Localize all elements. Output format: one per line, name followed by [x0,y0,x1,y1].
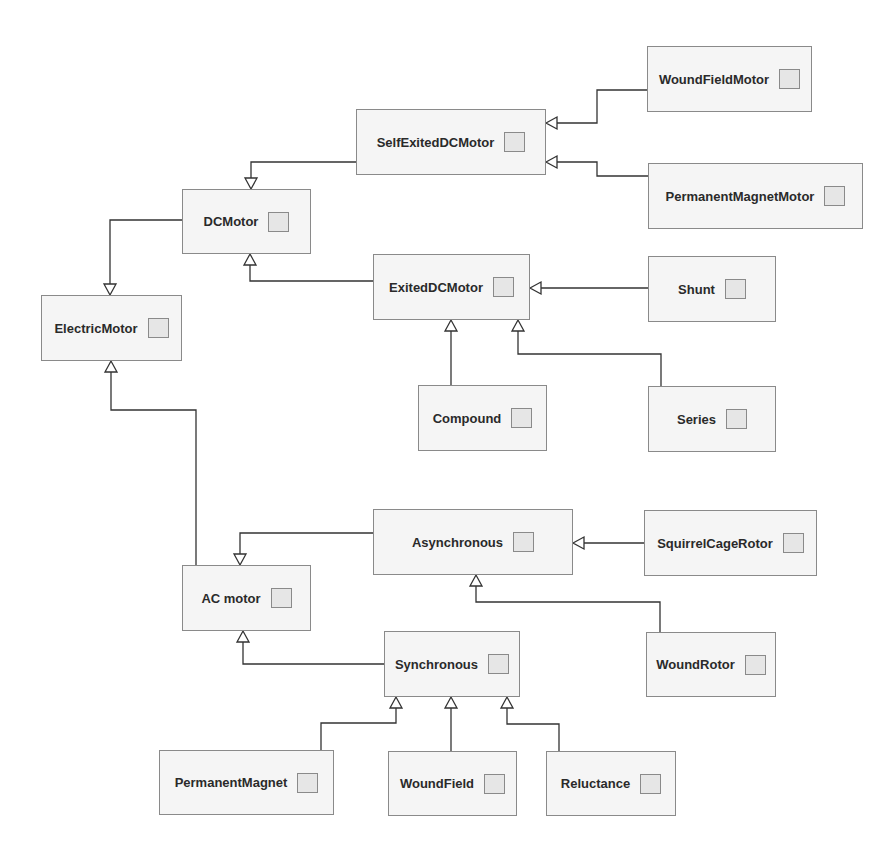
class-exited-dc-motor[interactable]: ExitedDCMotor [373,254,530,320]
class-label: WoundRotor [656,657,734,672]
class-label: Series [677,412,716,427]
class-wound-field-motor[interactable]: WoundFieldMotor [647,46,812,112]
class-icon [148,318,169,338]
generalization-arrowhead-icon [445,697,457,708]
generalization-arrowhead-icon [234,554,246,565]
class-icon [493,277,514,297]
class-label: Reluctance [561,776,630,791]
generalization-arrowhead-icon [470,575,482,586]
class-series[interactable]: Series [648,386,776,452]
class-label: SelfExitedDCMotor [377,135,495,150]
generalization-arrowhead-icon [501,697,513,708]
class-icon [297,773,318,793]
inheritance-edge [243,642,384,664]
class-squirrel-cage-rotor[interactable]: SquirrelCageRotor [644,510,817,576]
class-label: DCMotor [204,214,259,229]
class-label: WoundFieldMotor [659,72,769,87]
generalization-arrowhead-icon [245,178,257,189]
class-label: ElectricMotor [54,321,137,336]
generalization-arrowhead-icon [546,156,557,168]
inheritance-edge [518,331,661,386]
class-label: ExitedDCMotor [389,280,483,295]
class-icon [271,588,292,608]
inheritance-edge [476,586,660,632]
class-dc-motor[interactable]: DCMotor [182,189,311,254]
generalization-arrowhead-icon [237,631,249,642]
generalization-arrowhead-icon [244,254,256,265]
class-label: SquirrelCageRotor [657,536,773,551]
inheritance-edge [557,90,647,123]
inheritance-edge [111,372,196,565]
inheritance-edge [507,708,559,751]
class-diagram-canvas: ElectricMotor DCMotor SelfExitedDCMotor … [0,0,895,855]
inheritance-edge [250,265,373,281]
inheritance-edge [557,162,648,176]
inheritance-edge [240,533,373,554]
class-icon [268,212,289,232]
class-permanent-magnet[interactable]: PermanentMagnet [159,750,334,815]
generalization-arrowhead-icon [546,117,557,129]
class-label: PermanentMagnetMotor [666,189,815,204]
class-icon [511,408,532,428]
class-synchronous[interactable]: Synchronous [384,631,520,697]
generalization-arrowhead-icon [105,361,117,372]
class-icon [783,533,804,553]
class-asynchronous[interactable]: Asynchronous [373,509,573,575]
class-icon [824,186,845,206]
class-label: Compound [433,411,502,426]
class-label: Asynchronous [412,535,503,550]
class-icon [484,774,505,794]
class-label: Shunt [678,282,715,297]
class-icon [504,132,525,152]
class-icon [488,654,509,674]
class-icon [779,69,800,89]
class-compound[interactable]: Compound [418,385,547,451]
generalization-arrowhead-icon [573,537,584,549]
class-reluctance[interactable]: Reluctance [546,751,676,816]
class-wound-rotor[interactable]: WoundRotor [646,632,776,697]
class-permanent-magnet-motor[interactable]: PermanentMagnetMotor [648,163,863,229]
class-label: PermanentMagnet [175,775,288,790]
class-label: WoundField [400,776,474,791]
class-icon [513,532,534,552]
class-label: AC motor [201,591,260,606]
class-icon [640,774,661,794]
class-icon [726,409,747,429]
inheritance-edge [251,162,356,178]
class-wound-field[interactable]: WoundField [388,751,517,816]
class-icon [745,655,766,675]
class-electric-motor[interactable]: ElectricMotor [41,295,182,361]
generalization-arrowhead-icon [530,282,541,294]
generalization-arrowhead-icon [512,320,524,331]
generalization-arrowhead-icon [104,284,116,295]
class-ac-motor[interactable]: AC motor [182,565,311,631]
class-icon [725,279,746,299]
inheritance-edge [110,220,182,284]
class-label: Synchronous [395,657,478,672]
inheritance-edge [321,708,396,750]
generalization-arrowhead-icon [445,320,457,331]
class-shunt[interactable]: Shunt [648,256,776,322]
generalization-arrowhead-icon [390,697,402,708]
class-self-exited-dc-motor[interactable]: SelfExitedDCMotor [356,109,546,175]
